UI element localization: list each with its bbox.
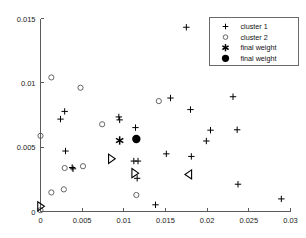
chart-canvas: 00.0050.010.0150.020.0250.0300.0050.010.… — [0, 0, 306, 238]
data-point-plus — [203, 138, 209, 144]
data-point-plus — [207, 127, 213, 133]
data-point-circle — [62, 165, 67, 170]
data-point-circle — [78, 85, 83, 90]
legend-label: final weight — [241, 54, 277, 63]
x-tick-label: 0 — [38, 216, 42, 225]
data-point-plus — [234, 127, 240, 133]
legend-dot-icon — [222, 55, 229, 62]
legend-label: cluster 1 — [241, 22, 268, 31]
data-point-plus — [116, 117, 122, 123]
data-point-plus — [62, 148, 68, 154]
x-tick-label: 0.03 — [283, 216, 298, 225]
final-weight-dot — [132, 135, 140, 143]
legend: cluster 1cluster 2final weightfinal weig… — [210, 18, 299, 66]
data-point-plus — [167, 95, 173, 101]
scatter-plot-figure: 00.0050.010.0150.020.0250.0300.0050.010.… — [0, 0, 306, 238]
data-point-plus — [230, 94, 236, 100]
data-point-plus — [163, 151, 169, 157]
triangle-right-marker — [109, 154, 116, 163]
data-point-plus — [152, 202, 158, 208]
x-tick-label: 0.025 — [239, 216, 258, 225]
data-point-plus — [135, 158, 141, 164]
data-point-plus — [69, 164, 75, 170]
y-tick-label: 0 — [31, 208, 35, 217]
y-tick-label: 0.005 — [17, 143, 36, 152]
triangle-left-marker — [185, 170, 192, 179]
data-point-plus — [70, 166, 76, 172]
series-filled-circle — [132, 135, 140, 143]
legend-label: cluster 2 — [241, 33, 268, 42]
final-weight-asterisk — [116, 136, 123, 144]
data-point-plus — [132, 124, 138, 130]
x-tick-label: 0.01 — [117, 216, 132, 225]
annotation-markers-layer — [38, 154, 192, 211]
data-point-plus — [57, 116, 63, 122]
data-point-plus — [116, 114, 122, 120]
data-point-circle — [49, 75, 54, 80]
series-asterisk — [116, 136, 123, 144]
series-circle — [38, 75, 162, 213]
x-tick-label: 0.015 — [156, 216, 175, 225]
data-point-plus — [235, 181, 241, 187]
data-point-plus — [188, 153, 194, 159]
data-point-plus — [61, 108, 67, 114]
data-point-plus — [278, 196, 284, 202]
legend-label: final weight — [241, 43, 277, 52]
data-point-circle — [156, 99, 161, 104]
data-point-circle — [80, 164, 85, 169]
y-tick-label: 0.015 — [17, 15, 36, 24]
y-tick-label: 0.01 — [21, 79, 36, 88]
x-tick-label: 0.005 — [73, 216, 92, 225]
data-point-circle — [61, 187, 66, 192]
x-tick-label: 0.02 — [200, 216, 215, 225]
data-point-circle — [100, 122, 105, 127]
data-point-plus — [183, 24, 189, 30]
data-point-circle — [134, 192, 139, 197]
data-point-plus — [187, 106, 193, 112]
data-point-circle — [49, 190, 54, 195]
